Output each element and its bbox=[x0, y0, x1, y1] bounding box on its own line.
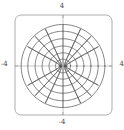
plot-frame bbox=[15, 15, 112, 115]
plot-canvas bbox=[0, 0, 124, 130]
focus-point bbox=[59, 65, 61, 67]
axis-label-top: 4 bbox=[0, 3, 124, 10]
axis-label-bottom: -4 bbox=[0, 119, 124, 126]
axis-ticks bbox=[15, 15, 112, 115]
axis-lines bbox=[15, 15, 112, 115]
axis-label-left: -4 bbox=[1, 61, 13, 68]
axis-label-right: 4 bbox=[112, 61, 124, 68]
focus-point bbox=[65, 65, 67, 67]
plot-figure: 4 -4 -4 4 bbox=[0, 0, 124, 130]
